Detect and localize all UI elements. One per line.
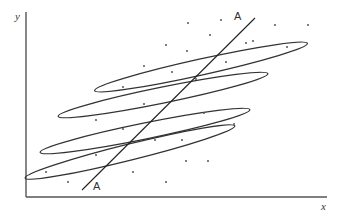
- data-point: [143, 103, 145, 105]
- axes: y x: [14, 10, 327, 212]
- ellipse-band-1: [93, 36, 309, 99]
- data-point: [233, 123, 235, 125]
- ellipse-band-3: [39, 102, 252, 160]
- scatter-points: [45, 19, 309, 183]
- data-point: [122, 86, 124, 88]
- data-point: [203, 112, 205, 114]
- scatter-diagram: y x A A: [0, 0, 339, 220]
- line-a: A A: [82, 10, 255, 192]
- data-point: [132, 171, 134, 173]
- data-point: [225, 61, 227, 63]
- data-point: [307, 24, 309, 26]
- data-point: [195, 78, 197, 80]
- data-point: [186, 50, 188, 52]
- data-point: [45, 171, 47, 173]
- data-point: [171, 71, 173, 73]
- line-a-segment: [82, 18, 255, 190]
- ellipse-band-4: [23, 118, 236, 186]
- line-a-label-top: A: [234, 10, 242, 22]
- line-a-label-bottom: A: [93, 180, 101, 192]
- data-point: [209, 34, 211, 36]
- data-point: [154, 139, 156, 141]
- y-axis-label: y: [14, 10, 20, 22]
- data-point: [143, 65, 145, 67]
- data-point: [122, 128, 124, 130]
- data-point: [95, 119, 97, 121]
- data-point: [245, 42, 247, 44]
- data-point: [187, 22, 189, 24]
- x-axis-label: x: [320, 200, 326, 212]
- ellipse-bands: [23, 36, 309, 186]
- data-point: [274, 24, 276, 26]
- data-point: [165, 181, 167, 183]
- ellipse-band-2: [57, 66, 270, 124]
- data-point: [220, 19, 222, 21]
- data-point: [67, 181, 69, 183]
- data-point: [165, 44, 167, 46]
- data-point: [252, 40, 254, 42]
- data-point: [95, 154, 97, 156]
- data-point: [181, 139, 183, 141]
- data-point: [207, 160, 209, 162]
- data-point: [185, 160, 187, 162]
- data-point: [286, 46, 288, 48]
